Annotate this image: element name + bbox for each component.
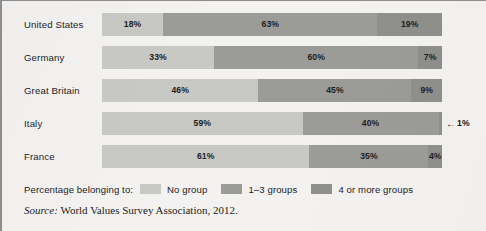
bar-row-label: Italy bbox=[24, 112, 98, 135]
bar-row: Germany33%60%7% bbox=[2, 46, 486, 69]
stacked-bar-chart: United States18%63%19%Germany33%60%7%Gre… bbox=[2, 1, 486, 177]
legend-swatch bbox=[311, 184, 332, 194]
arrow-left-icon: ← bbox=[446, 118, 456, 128]
bar-row: Italy59%40%←1% bbox=[2, 112, 486, 135]
callout-value: 1% bbox=[457, 112, 470, 135]
legend-item: No group bbox=[140, 184, 207, 195]
bar-row-label: France bbox=[24, 145, 98, 168]
legend-swatch bbox=[140, 184, 161, 194]
bar-segment-value: 59% bbox=[102, 112, 303, 135]
source-text: World Values Survey Association, 2012. bbox=[60, 204, 237, 216]
bar-track: 46%45%9% bbox=[102, 79, 442, 102]
bar-row: Great Britain46%45%9% bbox=[2, 79, 486, 102]
legend-label: 1–3 groups bbox=[248, 184, 297, 195]
bar-row-label: Great Britain bbox=[24, 79, 98, 102]
bar-segment-value: 40% bbox=[303, 112, 439, 135]
figure-panel: United States18%63%19%Germany33%60%7%Gre… bbox=[0, 0, 486, 231]
bar-segment-value: 60% bbox=[214, 46, 418, 69]
bar-segment bbox=[439, 112, 442, 135]
bar-segment-value: 63% bbox=[163, 13, 377, 36]
bar-track: 33%60%7% bbox=[102, 46, 442, 69]
bar-segment-value: 46% bbox=[102, 79, 258, 102]
bar-row: France61%35%4% bbox=[2, 145, 486, 168]
bar-segment-value: 7% bbox=[418, 46, 442, 69]
bar-row-label: Germany bbox=[24, 46, 98, 69]
bar-segment-value: 4% bbox=[428, 145, 442, 168]
legend-item: 4 or more groups bbox=[311, 184, 413, 195]
legend-label: No group bbox=[167, 184, 207, 195]
bar-track: 18%63%19% bbox=[102, 13, 442, 36]
legend-title: Percentage belonging to: bbox=[24, 184, 133, 195]
bar-segment-value: 45% bbox=[258, 79, 411, 102]
legend-label: 4 or more groups bbox=[338, 184, 413, 195]
bar-segment-callout: ←1% bbox=[446, 112, 470, 135]
source-note: Source: World Values Survey Association,… bbox=[24, 204, 238, 216]
bar-segment-value: 61% bbox=[102, 145, 309, 168]
bar-segment-value: 18% bbox=[102, 13, 163, 36]
bar-track: 61%35%4% bbox=[102, 145, 442, 168]
bar-track: 59%40% bbox=[102, 112, 442, 135]
legend-swatch bbox=[221, 184, 242, 194]
bar-segment-value: 35% bbox=[309, 145, 428, 168]
bar-segment-value: 19% bbox=[377, 13, 442, 36]
bar-segment-value: 9% bbox=[411, 79, 442, 102]
bar-segment-value: 33% bbox=[102, 46, 214, 69]
source-label: Source: bbox=[24, 204, 58, 216]
bar-row: United States18%63%19% bbox=[2, 13, 486, 36]
legend-item: 1–3 groups bbox=[221, 184, 297, 195]
bar-row-label: United States bbox=[24, 13, 98, 36]
chart-legend: Percentage belonging to: No group1–3 gro… bbox=[24, 181, 427, 197]
